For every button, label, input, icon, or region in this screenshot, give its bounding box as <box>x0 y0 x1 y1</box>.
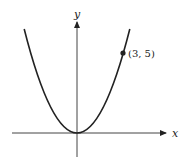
point-marker <box>120 50 125 55</box>
parabola-diagram: y x (3, 5) <box>0 0 187 159</box>
y-axis-label: y <box>73 8 81 21</box>
x-axis-label: x <box>172 127 179 140</box>
point-label: (3, 5) <box>128 48 155 59</box>
